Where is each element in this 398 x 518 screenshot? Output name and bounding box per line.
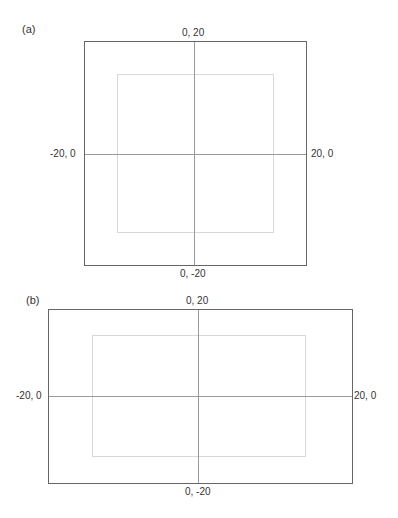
panel-b-bottom-coord: 0, -20: [185, 486, 211, 497]
panel-b-left-coord: -20, 0: [16, 390, 42, 401]
panel-a-label: (a): [22, 23, 35, 35]
panel-b-label: (b): [26, 294, 39, 306]
panel-a-bottom-coord: 0, -20: [180, 268, 206, 279]
panel-b-right-coord: 20, 0: [354, 390, 376, 401]
panel-a-horizontal-axis: [85, 154, 306, 155]
panel-b-horizontal-axis: [49, 396, 352, 397]
panel-b-top-coord: 0, 20: [186, 295, 208, 306]
panel-a-right-coord: 20, 0: [311, 148, 333, 159]
panel-a-left-coord: -20, 0: [50, 148, 76, 159]
panel-a-top-coord: 0, 20: [182, 27, 204, 38]
